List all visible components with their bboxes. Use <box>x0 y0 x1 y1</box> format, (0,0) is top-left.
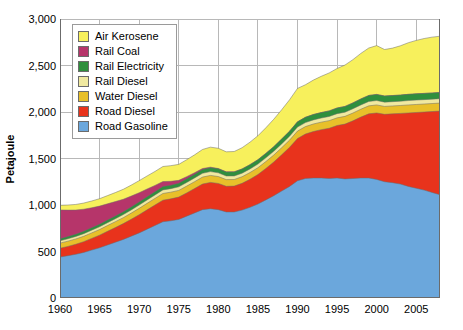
legend-item[interactable]: Road Diesel <box>78 104 168 119</box>
x-axis-tick-label: 1960 <box>48 303 72 315</box>
legend-swatch-icon <box>78 31 89 42</box>
y-axis-tick-label: 3,000 <box>10 13 56 25</box>
x-axis-tick-label: 1970 <box>127 303 151 315</box>
y-axis-tick-label: 2,000 <box>10 106 56 118</box>
legend-item[interactable]: Rail Diesel <box>78 74 168 89</box>
legend-item[interactable]: Road Gasoline <box>78 119 168 134</box>
y-axis-tick-label: 2,500 <box>10 60 56 72</box>
legend-swatch-icon <box>78 121 89 132</box>
x-axis-tick-label: 2000 <box>364 303 388 315</box>
y-axis-tick-label: 1,000 <box>10 199 56 211</box>
chart-legend: Air KeroseneRail CoalRail ElectricityRai… <box>72 24 177 139</box>
x-axis-tick-label: 1965 <box>87 303 111 315</box>
y-axis-ticks: 05001,0001,5002,0002,5003,000 <box>6 19 56 298</box>
legend-swatch-icon <box>78 61 89 72</box>
x-axis-tick-label: 1980 <box>206 303 230 315</box>
legend-swatch-icon <box>78 91 89 102</box>
x-axis-tick-label: 2005 <box>404 303 428 315</box>
legend-item-label: Road Diesel <box>95 106 155 117</box>
legend-item-label: Rail Diesel <box>95 76 148 87</box>
y-axis-tick-label: 500 <box>10 246 56 258</box>
x-axis-ticks: 1960196519701975198019851990199520002005 <box>0 303 463 323</box>
legend-item[interactable]: Rail Electricity <box>78 59 168 74</box>
legend-item[interactable]: Rail Coal <box>78 44 168 59</box>
x-axis-tick-label: 1985 <box>246 303 270 315</box>
y-axis-tick-label: 1,500 <box>10 153 56 165</box>
x-axis-tick-label: 1975 <box>167 303 191 315</box>
legend-swatch-icon <box>78 76 89 87</box>
x-axis-tick-label: 1990 <box>285 303 309 315</box>
legend-item[interactable]: Water Diesel <box>78 89 168 104</box>
x-axis-tick-label: 1995 <box>325 303 349 315</box>
stacked-area-chart: Petajoule 05001,0001,5002,0002,5003,000 … <box>0 0 463 330</box>
legend-item-label: Water Diesel <box>95 91 158 102</box>
legend-item-label: Rail Electricity <box>95 61 164 72</box>
legend-item-label: Road Gasoline <box>95 121 168 132</box>
legend-swatch-icon <box>78 106 89 117</box>
legend-item-label: Air Kerosene <box>95 31 159 42</box>
legend-item[interactable]: Air Kerosene <box>78 29 168 44</box>
legend-item-label: Rail Coal <box>95 46 140 57</box>
legend-swatch-icon <box>78 46 89 57</box>
